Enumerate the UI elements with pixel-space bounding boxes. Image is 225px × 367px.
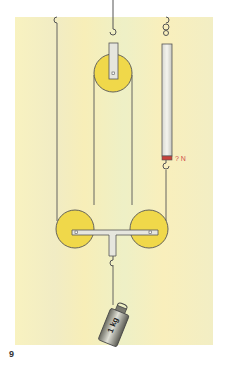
- spring-scale-marker: [162, 156, 172, 160]
- right-axle: [149, 231, 152, 234]
- top-pulley-axle: [112, 72, 115, 75]
- spring-scale-label: ? N: [175, 155, 186, 162]
- left-axle: [75, 231, 78, 234]
- pulley-diagram: ? N 1 kg: [0, 0, 225, 367]
- lower-pulley-right: [130, 210, 168, 248]
- spring-scale-body[interactable]: [162, 44, 172, 156]
- lower-pulley-left: [56, 210, 94, 248]
- figure-number: 9: [9, 349, 14, 359]
